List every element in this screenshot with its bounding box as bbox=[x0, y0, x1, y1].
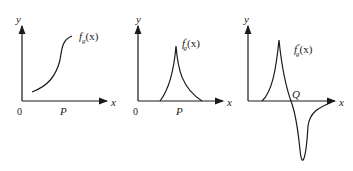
panel-3-function-label: f″g(x) bbox=[294, 43, 312, 58]
diagram-canvas bbox=[0, 0, 353, 171]
panel-1-origin: 0 bbox=[17, 107, 22, 117]
panel-2-function-label: f′g(x) bbox=[182, 37, 200, 52]
panel-3-point: Q bbox=[292, 89, 300, 100]
panel-1-point: P bbox=[60, 106, 67, 117]
panel-2-x-label: x bbox=[227, 97, 232, 108]
panel-2-curve bbox=[160, 46, 202, 101]
panel-2-origin: 0 bbox=[133, 107, 138, 117]
panel-2-axes bbox=[138, 26, 223, 101]
panel-2-point: P bbox=[176, 106, 183, 117]
panel-3-y-label: y bbox=[244, 14, 249, 25]
panel-3-curve bbox=[262, 40, 332, 160]
panel-1-x-label: x bbox=[111, 97, 116, 108]
panel-1-y-label: y bbox=[16, 14, 21, 25]
panel-1-curve bbox=[32, 36, 72, 92]
panel-3-x-label: x bbox=[339, 97, 344, 108]
panel-2-y-label: y bbox=[136, 14, 141, 25]
panel-1-function-label: fg(x) bbox=[79, 31, 98, 45]
